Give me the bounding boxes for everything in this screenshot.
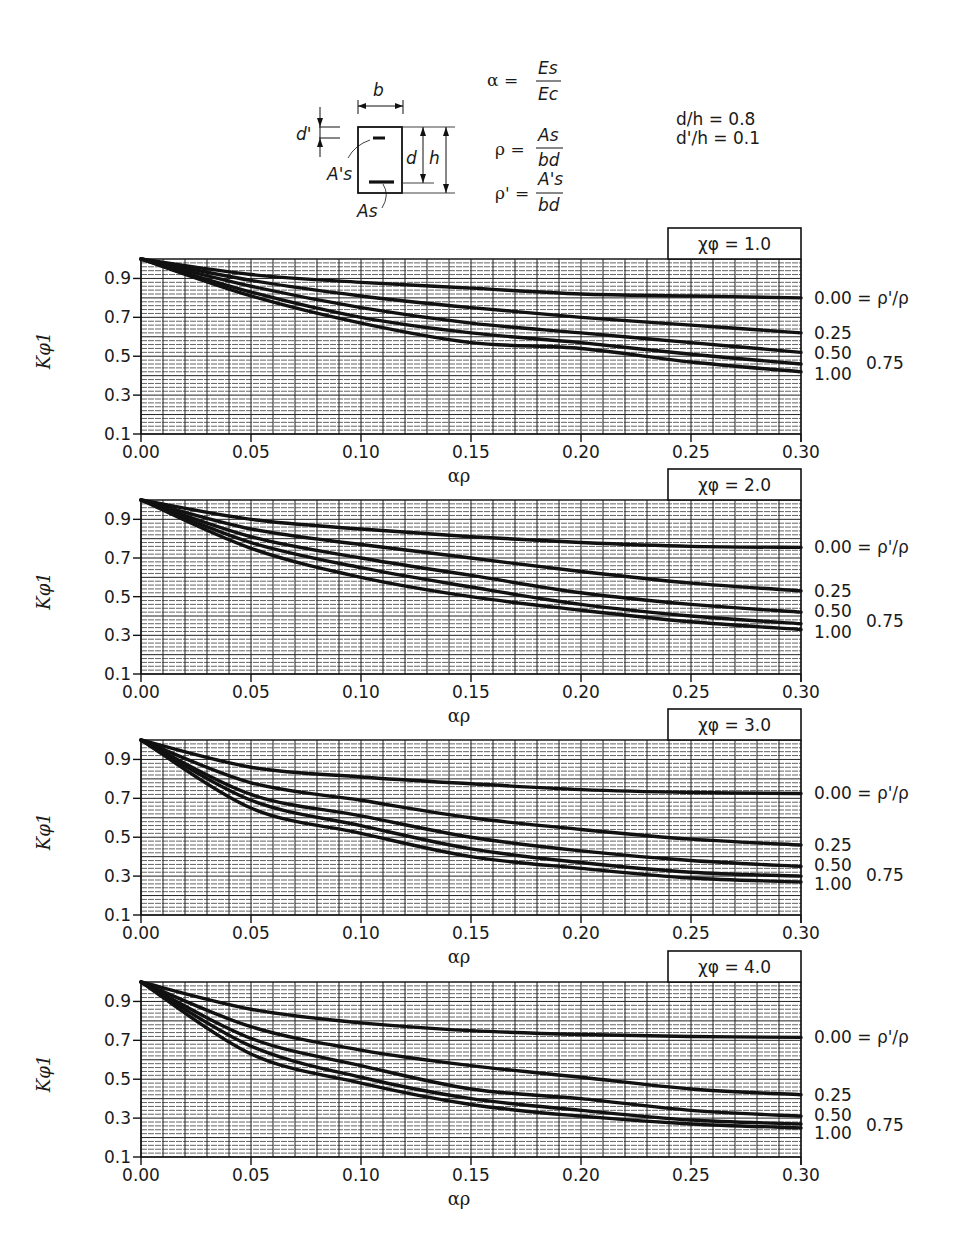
formula-alpha-num: Es bbox=[538, 58, 558, 78]
svg-text:α =: α = bbox=[487, 70, 518, 90]
x-tick-label: 0.20 bbox=[562, 1165, 600, 1185]
y-tick-label: 0.3 bbox=[104, 385, 131, 405]
x-tick-label: 0.15 bbox=[452, 682, 490, 702]
y-tick-label: 0.5 bbox=[104, 346, 131, 366]
y-tick-label: 0.9 bbox=[104, 991, 131, 1011]
panel-title: χφ = 4.0 bbox=[698, 957, 771, 977]
y-tick-label: 0.3 bbox=[104, 625, 131, 645]
y-axis-label: Kφ1 bbox=[33, 332, 54, 371]
formula-alpha-den: Ec bbox=[538, 84, 559, 104]
x-tick-label: 0.30 bbox=[782, 682, 820, 702]
series-label-1-00: 1.00 bbox=[814, 622, 852, 642]
panel-title: χφ = 3.0 bbox=[698, 715, 771, 735]
y-tick-label: 0.1 bbox=[104, 664, 131, 684]
series-label-0-25: 0.25 bbox=[814, 835, 852, 855]
label-d: d bbox=[406, 148, 417, 168]
x-tick-label: 0.10 bbox=[342, 682, 380, 702]
x-tick-label: 0.25 bbox=[672, 923, 710, 943]
series-label-0-00: 0.00 = ρ'/ρ bbox=[814, 1027, 909, 1047]
y-tick-label: 0.9 bbox=[104, 509, 131, 529]
y-axis-label: Kφ1 bbox=[33, 572, 54, 611]
y-tick-label: 0.7 bbox=[104, 307, 131, 327]
chart-panel-chi-phi-3: 0.10.30.50.70.90.000.050.100.150.200.250… bbox=[33, 709, 909, 967]
y-tick-label: 0.5 bbox=[104, 1069, 131, 1089]
series-label-1-00: 1.00 bbox=[814, 364, 852, 384]
svg-text:ρ' =: ρ' = bbox=[495, 183, 529, 203]
x-tick-label: 0.30 bbox=[782, 923, 820, 943]
series-label-0-00: 0.00 = ρ'/ρ bbox=[814, 537, 909, 557]
y-tick-label: 0.9 bbox=[104, 268, 131, 288]
series-label-0-75: 0.75 bbox=[866, 1115, 904, 1135]
series-label-0-50: 0.50 bbox=[814, 855, 852, 875]
ratio-dprime-over-h: d'/h = 0.1 bbox=[676, 128, 760, 148]
x-tick-label: 0.15 bbox=[452, 442, 490, 462]
y-tick-label: 0.3 bbox=[104, 1108, 131, 1128]
series-label-0-25: 0.25 bbox=[814, 1085, 852, 1105]
x-tick-label: 0.20 bbox=[562, 923, 600, 943]
label-b: b bbox=[373, 80, 384, 100]
x-axis-label: αρ bbox=[448, 465, 471, 486]
series-label-0-75: 0.75 bbox=[866, 865, 904, 885]
formula-rho-prime-den: bd bbox=[538, 195, 560, 215]
x-tick-label: 0.05 bbox=[232, 923, 270, 943]
y-axis-label: Kφ1 bbox=[33, 813, 54, 852]
panel-title: χφ = 1.0 bbox=[698, 234, 771, 254]
x-tick-label: 0.15 bbox=[452, 1165, 490, 1185]
series-label-0-50: 0.50 bbox=[814, 1105, 852, 1125]
formula-rho-num: As bbox=[537, 125, 559, 145]
x-tick-label: 0.00 bbox=[122, 682, 160, 702]
x-tick-label: 0.10 bbox=[342, 1165, 380, 1185]
svg-text:ρ =: ρ = bbox=[495, 139, 525, 159]
label-d-prime: d' bbox=[296, 124, 311, 144]
y-tick-label: 0.1 bbox=[104, 424, 131, 444]
x-tick-label: 0.25 bbox=[672, 1165, 710, 1185]
y-tick-label: 0.7 bbox=[104, 1030, 131, 1050]
formula-rho-prime-num: A's bbox=[537, 169, 563, 189]
x-axis-label: αρ bbox=[448, 946, 471, 967]
series-label-0-75: 0.75 bbox=[866, 611, 904, 631]
x-tick-label: 0.30 bbox=[782, 442, 820, 462]
x-tick-label: 0.00 bbox=[122, 442, 160, 462]
y-axis-label: Kφ1 bbox=[33, 1055, 54, 1094]
series-label-0-00: 0.00 = ρ'/ρ bbox=[814, 783, 909, 803]
x-tick-label: 0.15 bbox=[452, 923, 490, 943]
x-tick-label: 0.05 bbox=[232, 442, 270, 462]
series-label-0-75: 0.75 bbox=[866, 353, 904, 373]
label-as: As bbox=[356, 201, 378, 221]
series-label-0-50: 0.50 bbox=[814, 343, 852, 363]
y-tick-label: 0.1 bbox=[104, 905, 131, 925]
chart-panel-chi-phi-4: 0.10.30.50.70.90.000.050.100.150.200.250… bbox=[33, 951, 909, 1209]
x-tick-label: 0.20 bbox=[562, 682, 600, 702]
x-tick-label: 0.05 bbox=[232, 1165, 270, 1185]
x-tick-label: 0.10 bbox=[342, 923, 380, 943]
y-tick-label: 0.1 bbox=[104, 1147, 131, 1167]
x-axis-label: αρ bbox=[448, 1188, 471, 1209]
series-label-0-25: 0.25 bbox=[814, 581, 852, 601]
formula-rho-den: bd bbox=[538, 150, 560, 170]
x-tick-label: 0.05 bbox=[232, 682, 270, 702]
series-label-0-50: 0.50 bbox=[814, 601, 852, 621]
chart-panel-chi-phi-1: 0.10.30.50.70.90.000.050.100.150.200.250… bbox=[33, 228, 909, 486]
chart-panel-chi-phi-2: 0.10.30.50.70.90.000.050.100.150.200.250… bbox=[33, 469, 909, 726]
x-tick-label: 0.30 bbox=[782, 1165, 820, 1185]
panel-title: χφ = 2.0 bbox=[698, 475, 771, 495]
x-tick-label: 0.20 bbox=[562, 442, 600, 462]
y-tick-label: 0.3 bbox=[104, 866, 131, 886]
x-tick-label: 0.10 bbox=[342, 442, 380, 462]
y-tick-label: 0.7 bbox=[104, 548, 131, 568]
series-label-1-00: 1.00 bbox=[814, 874, 852, 894]
formula-alpha: α = Es Ec bbox=[487, 58, 561, 104]
ratio-d-over-h: d/h = 0.8 bbox=[676, 109, 755, 129]
label-h: h bbox=[429, 148, 440, 168]
figure: b d' d h A's As α = Es Ec ρ = As bd ρ' =… bbox=[0, 0, 970, 1253]
formula-rho: ρ = As bd bbox=[495, 125, 563, 170]
y-tick-label: 0.5 bbox=[104, 587, 131, 607]
x-tick-label: 0.25 bbox=[672, 442, 710, 462]
label-as-prime: A's bbox=[326, 164, 352, 184]
x-tick-label: 0.00 bbox=[122, 1165, 160, 1185]
series-label-0-25: 0.25 bbox=[814, 323, 852, 343]
y-tick-label: 0.7 bbox=[104, 788, 131, 808]
series-label-1-00: 1.00 bbox=[814, 1123, 852, 1143]
series-label-0-00: 0.00 = ρ'/ρ bbox=[814, 288, 909, 308]
formula-rho-prime: ρ' = A's bd bbox=[495, 169, 563, 215]
